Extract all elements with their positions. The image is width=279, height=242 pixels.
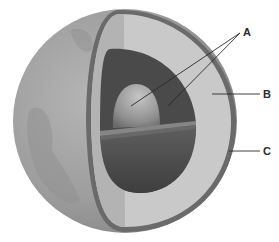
label-c: C <box>263 146 271 157</box>
earth-layers-diagram: A B C <box>0 0 279 242</box>
label-b: B <box>263 89 271 100</box>
label-a: A <box>243 27 251 38</box>
earth-cutaway-illustration <box>0 0 279 242</box>
